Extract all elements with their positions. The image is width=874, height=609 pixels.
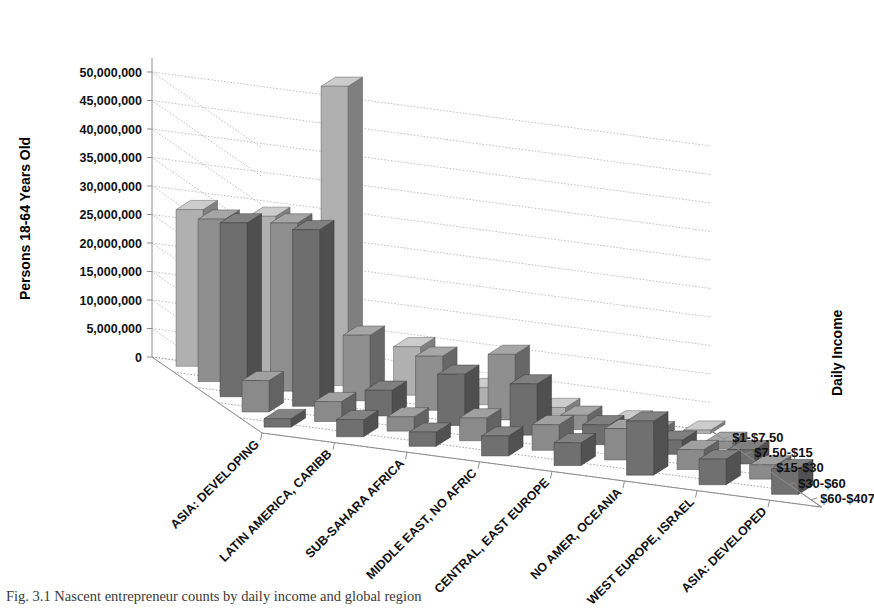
- bar-front-face: [337, 420, 364, 437]
- z-axis-tick-label: $60-$407: [820, 491, 874, 506]
- bar-front-face: [482, 436, 509, 456]
- bar-front-face: [264, 419, 291, 428]
- x-axis-tick: [623, 481, 625, 488]
- x-axis-tick: [333, 443, 335, 450]
- gridline-depth: [152, 129, 261, 204]
- bar-front-face: [387, 417, 414, 431]
- x-axis-category-label: NO AMER, OCEANIA: [528, 485, 625, 582]
- x-axis-tick: [261, 433, 263, 440]
- y-axis-tick-label: 10,000,000: [79, 294, 142, 308]
- bar-front-face: [627, 421, 654, 475]
- y-axis-title: Persons 18-64 Years Old: [17, 137, 33, 300]
- bar-front-face: [699, 459, 726, 485]
- gridline-depth: [152, 101, 261, 176]
- bar-3d: [220, 214, 261, 397]
- z-axis-tick-label: $30-$60: [798, 476, 846, 491]
- bar-3d: [699, 450, 741, 485]
- x-axis-tick: [696, 491, 698, 498]
- y-axis-tick-label: 25,000,000: [79, 208, 142, 222]
- bar-front-face: [409, 432, 436, 446]
- y-axis-tick-label: 45,000,000: [79, 94, 142, 108]
- x-axis-tick: [768, 500, 770, 507]
- z-axis-tick-label: $15-$30: [776, 460, 824, 475]
- bar-front-face: [293, 230, 320, 407]
- bar-front-face: [220, 223, 247, 397]
- y-axis-tick-label: 5,000,000: [86, 322, 142, 336]
- x-axis-tick: [478, 462, 480, 469]
- gridline-horizontal: [152, 72, 712, 146]
- x-axis-category-label: ASIA: DEVELOPING: [168, 437, 262, 531]
- y-axis-tick-label: 40,000,000: [79, 123, 142, 137]
- z-axis-tick-label: $1-$7.50: [732, 430, 783, 445]
- gridline-horizontal: [152, 101, 712, 175]
- gridline-depth: [152, 72, 261, 147]
- bar-front-face: [242, 381, 269, 412]
- bar-side-face: [320, 220, 335, 406]
- bar-side-face: [654, 412, 669, 475]
- bar-3d: [293, 220, 335, 406]
- y-axis: 05,000,00010,000,00015,000,00020,000,000…: [79, 58, 152, 365]
- bar-front-face: [554, 443, 581, 466]
- gridline-horizontal: [152, 129, 712, 203]
- z-axis-title: Daily Income: [829, 309, 845, 396]
- y-axis-tick-label: 20,000,000: [79, 237, 142, 251]
- x-axis-tick: [406, 452, 408, 459]
- y-axis-title-group: Persons 18-64 Years Old: [17, 137, 33, 300]
- y-axis-tick-label: 15,000,000: [79, 265, 142, 279]
- bar-side-face: [247, 214, 261, 397]
- bars-group: [176, 77, 813, 494]
- z-axis-tick-label: $7.50-$15: [754, 445, 813, 460]
- y-axis-tick-label: 35,000,000: [79, 151, 142, 165]
- bar-front-face: [315, 402, 342, 422]
- z-axis-tick: [811, 498, 817, 500]
- figure-caption: Fig. 3.1 Nascent entrepreneur counts by …: [6, 588, 422, 605]
- bar-3d: [242, 371, 283, 412]
- y-axis-tick-label: 50,000,000: [79, 66, 142, 80]
- bar-3d: [627, 412, 669, 475]
- x-axis-category-label: ASIA: DEVELOPED: [679, 504, 770, 595]
- bar-chart-3d: 05,000,00010,000,00015,000,00020,000,000…: [0, 0, 874, 609]
- bar-3d: [264, 409, 306, 427]
- figure-container: 05,000,00010,000,00015,000,00020,000,000…: [0, 0, 874, 609]
- y-axis-tick-label: 30,000,000: [79, 180, 142, 194]
- y-axis-tick-label: 0: [135, 351, 142, 365]
- x-axis-tick: [551, 471, 553, 478]
